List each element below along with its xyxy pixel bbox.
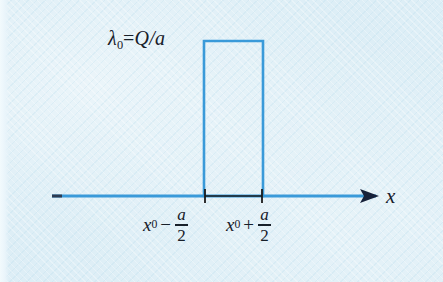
density-rectangle-outline xyxy=(204,41,263,196)
density-label: λ0=Q/a xyxy=(108,28,165,51)
tick-right-numerator: a xyxy=(258,206,271,224)
density-symbol: λ xyxy=(108,27,117,49)
density-expression: Q/a xyxy=(135,27,166,49)
tick-left-fraction: a 2 xyxy=(175,206,188,244)
tick-right-denominator: 2 xyxy=(258,226,271,244)
tick-left-base: x xyxy=(143,215,151,234)
tick-label-right: x0 + a 2 xyxy=(226,206,272,244)
tick-left-denominator: 2 xyxy=(175,226,188,244)
density-equals: = xyxy=(123,27,134,49)
tick-right-operator: + xyxy=(243,215,254,234)
charge-density-figure: λ0=Q/a x x0 − a 2 x0 + a 2 xyxy=(0,0,443,282)
tick-right-base: x xyxy=(226,215,234,234)
tick-left-numerator: a xyxy=(175,206,188,224)
x-axis-label: x xyxy=(386,186,395,207)
tick-left-operator: − xyxy=(160,215,171,234)
tick-label-left: x0 − a 2 xyxy=(143,206,189,244)
plot-canvas xyxy=(0,0,443,282)
tick-right-fraction: a 2 xyxy=(258,206,271,244)
tick-left-subscript: 0 xyxy=(151,219,157,231)
tick-right-subscript: 0 xyxy=(234,219,240,231)
